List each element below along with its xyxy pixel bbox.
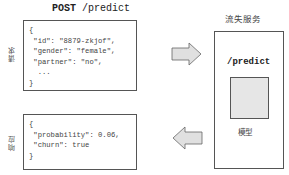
right-arrow-icon	[171, 42, 203, 66]
request-title: POST /predict	[52, 3, 130, 14]
left-arrow-icon	[171, 126, 203, 150]
request-body-box: { "id": "8879-zkjof", "gender": "female"…	[23, 20, 137, 91]
code-line: "probability": 0.06,	[29, 130, 136, 141]
code-line: "gender": "female",	[29, 46, 136, 57]
model-block	[230, 77, 269, 119]
request-path: /predict	[82, 3, 130, 14]
code-line: ...	[29, 67, 136, 78]
service-endpoint: /predict	[227, 57, 270, 67]
request-method: POST	[52, 3, 76, 14]
service-title: 流失服务	[225, 12, 261, 24]
code-line: {	[29, 119, 136, 130]
response-body-box: { "probability": 0.06, "churn": true}	[23, 114, 137, 170]
code-line: "id": "8879-zkjof",	[29, 36, 136, 47]
response-side-label: 响应	[7, 135, 17, 151]
request-body: { "id": "8879-zkjof", "gender": "female"…	[24, 21, 136, 88]
code-line: "partner": "no",	[29, 57, 136, 68]
code-line: }	[29, 78, 136, 89]
code-line: {	[29, 25, 136, 36]
code-line: }	[29, 151, 136, 162]
code-line: "churn": true	[29, 140, 136, 151]
model-label: 模型	[238, 126, 252, 137]
response-body: { "probability": 0.06, "churn": true}	[24, 115, 136, 161]
request-side-label: 请求	[7, 46, 17, 62]
